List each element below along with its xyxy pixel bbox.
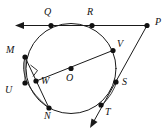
point-V — [110, 48, 115, 53]
point-Q — [48, 23, 53, 28]
point-T — [98, 102, 103, 107]
point-M — [22, 54, 27, 59]
label-M: M — [6, 45, 14, 55]
label-N: N — [44, 111, 51, 121]
label-S: S — [122, 77, 127, 87]
point-R — [89, 23, 94, 28]
arrowhead-bottom — [90, 119, 98, 129]
point-P — [144, 23, 149, 28]
label-P: P — [155, 17, 161, 27]
label-Q: Q — [44, 7, 51, 17]
point-W — [33, 78, 38, 83]
point-O — [68, 66, 73, 71]
label-V: V — [117, 39, 123, 49]
point-U — [22, 80, 27, 85]
point-S — [113, 79, 118, 84]
arrowhead-left — [15, 22, 24, 29]
geometry-figure: Q R P M V O S U W N T — [0, 0, 168, 131]
label-O: O — [66, 73, 73, 83]
label-U: U — [5, 85, 12, 95]
geometry-canvas — [0, 0, 168, 131]
label-R: R — [87, 7, 93, 17]
label-T: T — [105, 107, 111, 117]
label-W: W — [41, 76, 49, 86]
